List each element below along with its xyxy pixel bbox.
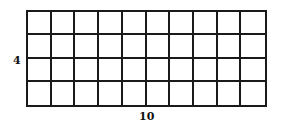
grid-cell: [52, 35, 76, 58]
grid-cell: [99, 12, 123, 35]
grid-cell: [28, 12, 52, 35]
grid-cell: [218, 12, 242, 35]
grid-cell: [218, 35, 242, 58]
grid-cell: [170, 12, 194, 35]
grid-cell: [99, 82, 123, 105]
grid-cell: [75, 82, 99, 105]
grid-cell: [123, 59, 147, 82]
grid-cell: [170, 59, 194, 82]
grid-cell: [52, 82, 76, 105]
grid-rectangle: [26, 10, 267, 107]
grid-cell: [99, 35, 123, 58]
grid-cell: [241, 82, 265, 105]
grid-cell: [194, 35, 218, 58]
grid-cell: [28, 35, 52, 58]
grid-cell: [28, 59, 52, 82]
grid-cell: [241, 12, 265, 35]
width-label: 10: [139, 111, 154, 122]
grid-cell: [123, 82, 147, 105]
grid-cell: [194, 59, 218, 82]
grid-cell: [28, 82, 52, 105]
height-label: 4: [13, 55, 21, 66]
grid-cell: [170, 35, 194, 58]
grid-cell: [52, 12, 76, 35]
grid-cell: [75, 35, 99, 58]
grid-cell: [147, 82, 171, 105]
grid-cell: [241, 59, 265, 82]
grid-cell: [123, 12, 147, 35]
grid-cell: [52, 59, 76, 82]
grid-cell: [147, 35, 171, 58]
grid-cell: [75, 12, 99, 35]
grid-cell: [194, 12, 218, 35]
grid-cell: [218, 59, 242, 82]
grid-cell: [147, 12, 171, 35]
grid-cell: [170, 82, 194, 105]
grid-cell: [123, 35, 147, 58]
grid-cell: [99, 59, 123, 82]
grid-cell: [241, 35, 265, 58]
grid-cell: [218, 82, 242, 105]
grid-cell: [75, 59, 99, 82]
grid-cell: [147, 59, 171, 82]
grid-cell: [194, 82, 218, 105]
